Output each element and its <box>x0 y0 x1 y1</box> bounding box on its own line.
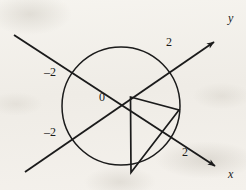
origin-label: 0 <box>99 91 105 103</box>
tick-label-x-negative: –2 <box>44 126 56 138</box>
tick-label-y-negative: –2 <box>44 66 56 78</box>
figure-canvas <box>0 0 246 190</box>
tick-label-y-positive: 2 <box>166 36 172 48</box>
x-axis-label: x <box>228 168 233 180</box>
math-figure: 2 –2 2 –2 0 y x <box>0 0 246 190</box>
tick-label-x-positive: 2 <box>182 146 188 158</box>
y-axis-label: y <box>228 12 233 24</box>
